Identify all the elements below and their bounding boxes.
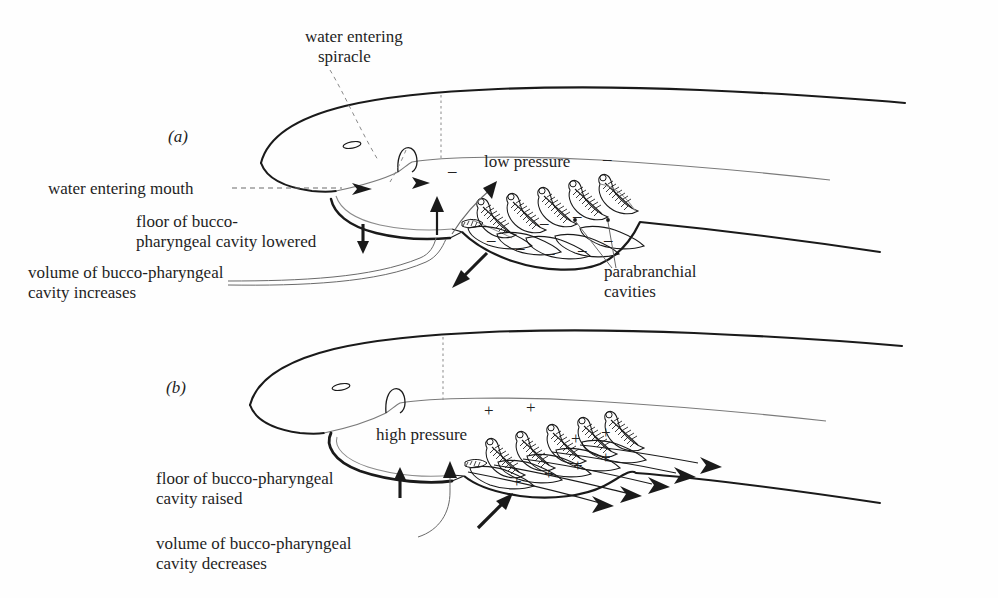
gill-outflow-arrowheads [592, 457, 722, 513]
minus-sign: – [546, 244, 555, 261]
minus-sign: – [487, 231, 496, 248]
plus-sign: + [573, 457, 583, 474]
label-floor-lowered-line1: floor of bucco- [136, 212, 238, 232]
panel-b-id: (b) [166, 378, 186, 398]
plus-sign: + [526, 399, 536, 416]
plus-sign: + [512, 473, 522, 490]
diagram-artwork [0, 0, 998, 598]
label-floor-lowered-line2: pharyngeal cavity lowered [136, 232, 316, 252]
panel-a-artwork [228, 70, 905, 288]
minus-sign: – [540, 214, 549, 231]
plus-sign: + [544, 465, 554, 482]
label-parabranchial-line2: cavities [604, 282, 656, 302]
minus-sign: – [603, 150, 612, 167]
label-high-pressure: high pressure [376, 425, 467, 445]
minus-sign: – [448, 162, 457, 179]
minus-sign: – [516, 239, 525, 256]
label-water-entering-spiracle-line1: water entering [305, 27, 403, 47]
label-water-entering-spiracle-line2: spiracle [318, 47, 371, 67]
panel-a-id: (a) [168, 127, 188, 147]
label-floor-raised-line2: cavity raised [156, 489, 242, 509]
label-volume-increases-line1: volume of bucco-pharyngeal [28, 263, 223, 283]
label-low-pressure: low pressure [484, 152, 570, 172]
plus-sign: + [571, 430, 581, 447]
plus-sign: + [601, 449, 611, 466]
label-volume-increases-line2: cavity increases [28, 283, 136, 303]
figure-canvas: (a) (b) water entering spiracle water en… [0, 0, 998, 598]
label-volume-decreases-line1: volume of bucco-pharyngeal [156, 534, 351, 554]
plus-sign: + [601, 424, 611, 441]
spiracle-inflow-arrowhead [412, 177, 430, 189]
minus-sign: – [604, 231, 613, 248]
label-parabranchial-line1: parabranchial [604, 262, 697, 282]
label-floor-raised-line1: floor of bucco-pharyngeal [156, 469, 333, 489]
minus-sign: – [573, 207, 582, 224]
minus-sign: – [578, 241, 587, 258]
label-volume-decreases-line2: cavity decreases [156, 554, 267, 574]
label-water-entering-mouth: water entering mouth [48, 179, 193, 199]
plus-sign: + [484, 402, 494, 419]
